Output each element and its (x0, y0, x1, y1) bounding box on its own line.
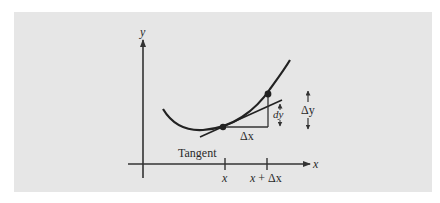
dy-label: dy (273, 108, 284, 120)
point-at-x (220, 124, 226, 130)
point-at-x-plus-dx (265, 91, 272, 98)
tick-label-x-plus-dx: x + Δx (249, 171, 282, 185)
delta-x-label: Δx (240, 129, 254, 143)
y-axis-label: y (139, 25, 146, 39)
delta-y-label: Δy (301, 103, 315, 117)
tick-label-x: x (221, 171, 228, 185)
x-axis-label: x (312, 157, 319, 171)
tangent-label: Tangent (178, 146, 217, 160)
differential-diagram: y x x x + Δx dy Δy Δx Tangent (0, 0, 440, 203)
